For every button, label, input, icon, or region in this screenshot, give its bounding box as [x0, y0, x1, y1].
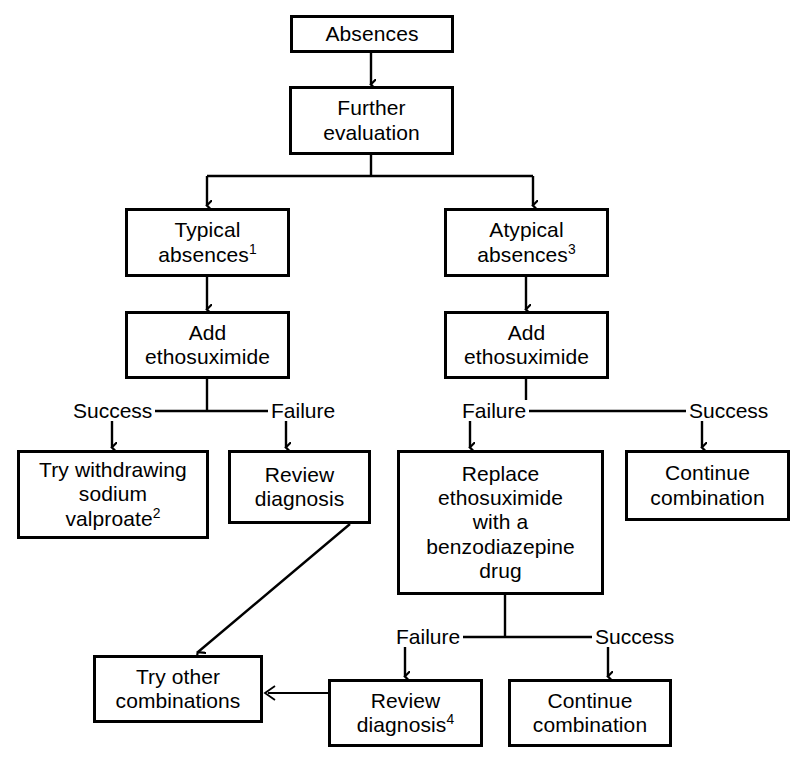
node-typical-absences-label: Typical absences1: [154, 218, 261, 267]
node-continue-combination-bottom-label: Continue combination: [529, 689, 651, 738]
edge-label-right-failure: Failure: [459, 400, 529, 421]
node-absences-label: Absences: [321, 22, 422, 46]
edge-label-left-success: Success: [70, 400, 155, 421]
edge-label-left-failure: Failure: [268, 400, 338, 421]
node-try-withdrawing-sodium-valproate[interactable]: Try withdrawing sodium valproate2: [17, 450, 209, 539]
node-review-diagnosis-left[interactable]: Review diagnosis: [228, 450, 371, 524]
node-replace-ethosuximide[interactable]: Replace ethosuximide with a benzodiazepi…: [397, 450, 604, 595]
node-review-diagnosis-bottom-label: Review diagnosis4: [353, 689, 458, 738]
node-add-ethosuximide-left[interactable]: Add ethosuximide: [125, 311, 290, 379]
flowchart-canvas: Absences Further evaluation Typical abse…: [0, 0, 806, 763]
node-replace-ethosuximide-label: Replace ethosuximide with a benzodiazepi…: [422, 462, 579, 584]
edge-label-right-success: Success: [686, 400, 771, 421]
node-continue-combination-bottom[interactable]: Continue combination: [508, 679, 672, 747]
footnote-marker-3: 3: [568, 241, 576, 257]
node-try-other-combinations-label: Try other combinations: [112, 665, 245, 714]
footnote-marker-4: 4: [446, 711, 454, 727]
node-add-ethosuximide-right[interactable]: Add ethosuximide: [444, 311, 609, 379]
node-continue-combination-right[interactable]: Continue combination: [625, 450, 790, 521]
node-add-ethosuximide-left-label: Add ethosuximide: [141, 321, 274, 370]
edge-label-bottom-failure: Failure: [393, 626, 463, 647]
node-absences[interactable]: Absences: [290, 15, 454, 53]
node-further-evaluation-label: Further evaluation: [319, 96, 424, 145]
node-atypical-absences-label: Atypical absences3: [473, 218, 580, 267]
node-review-diagnosis-left-label: Review diagnosis: [251, 463, 349, 512]
node-continue-combination-right-label: Continue combination: [646, 461, 768, 510]
node-try-other-combinations[interactable]: Try other combinations: [93, 655, 263, 723]
node-further-evaluation[interactable]: Further evaluation: [289, 86, 454, 155]
edge-label-bottom-success: Success: [592, 626, 677, 647]
node-atypical-absences[interactable]: Atypical absences3: [444, 208, 609, 277]
node-typical-absences[interactable]: Typical absences1: [125, 208, 290, 277]
node-try-withdrawing-sodium-valproate-label: Try withdrawing sodium valproate2: [35, 458, 191, 531]
node-review-diagnosis-bottom[interactable]: Review diagnosis4: [328, 679, 483, 747]
footnote-marker-1: 1: [249, 241, 257, 257]
node-add-ethosuximide-right-label: Add ethosuximide: [460, 321, 593, 370]
footnote-marker-2: 2: [153, 505, 161, 521]
